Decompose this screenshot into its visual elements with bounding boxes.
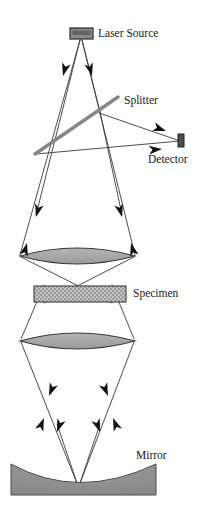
ray-cross-left xyxy=(36,112,62,215)
label-mirror: Mirror xyxy=(136,449,167,461)
optical-diagram-figure: Laser Source Splitter Detector Specimen … xyxy=(0,0,208,516)
arrow-lens-lower-right-up-icon xyxy=(109,416,122,431)
objective-lens-lower xyxy=(20,333,135,349)
arrow-lens-lower-left-up-icon xyxy=(35,416,48,431)
beam-splitter xyxy=(35,97,118,154)
ray-mirror-reflect-left xyxy=(57,424,78,486)
label-splitter: Splitter xyxy=(124,94,158,107)
laser-source xyxy=(70,28,93,39)
laser-source-window xyxy=(73,31,91,36)
arrow-source-left-icon xyxy=(59,62,71,77)
ray-inner-right xyxy=(82,40,100,112)
ray-lens-lower-right-to-mirror xyxy=(79,342,134,486)
ray-to-detector-upper xyxy=(99,113,180,141)
ray-lens-lower-left-to-mirror xyxy=(21,342,78,486)
label-detector: Detector xyxy=(148,153,188,165)
arrow-lens-lower-right-down-icon xyxy=(99,382,112,397)
arrow-head-group xyxy=(19,62,167,433)
objective-lens-upper xyxy=(20,248,135,264)
detector-body xyxy=(178,134,184,147)
label-laser-source: Laser Source xyxy=(98,27,158,39)
concave-mirror xyxy=(11,464,156,495)
arrow-lens-lower-left-down-icon xyxy=(45,382,58,397)
ray-source-to-lens-left xyxy=(20,40,80,255)
ray-mirror-reflect-right xyxy=(79,424,100,486)
arrow-detector-upper-icon xyxy=(152,123,167,136)
ray-inner-left xyxy=(62,40,80,112)
ray-cross-right xyxy=(100,112,122,215)
diagram-canvas: Laser Source Splitter Detector Specimen … xyxy=(0,0,208,516)
specimen-slide xyxy=(34,286,126,302)
label-specimen: Specimen xyxy=(133,287,179,300)
